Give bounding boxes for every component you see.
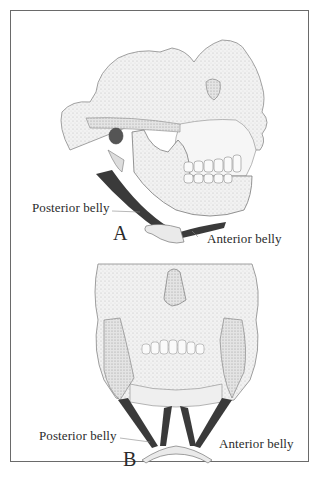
label-a-posterior-belly: Posterior belly [32,200,110,216]
label-b-posterior-belly: Posterior belly [39,428,117,444]
panel-letter-b: B [123,448,136,471]
label-b-anterior-belly: Anterior belly [219,436,294,452]
panel-letter-a: A [113,222,127,245]
skull-frontal-illustration [0,0,328,494]
label-a-anterior-belly: Anterior belly [207,231,282,247]
